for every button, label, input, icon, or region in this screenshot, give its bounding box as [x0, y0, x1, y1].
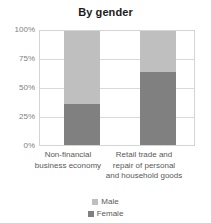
chart-title: By gender — [0, 6, 211, 18]
bar-segment-male[interactable] — [64, 31, 100, 106]
x-axis-category-label-line: Retail trade and — [101, 150, 187, 161]
x-axis-category-label-line: repair of personal — [101, 161, 187, 172]
legend-item[interactable]: Female — [0, 208, 211, 220]
chart-legend: MaleFemale — [0, 196, 211, 220]
x-axis-category-label: Non-financialbusiness economy — [25, 150, 111, 171]
x-axis-category-label: Retail trade andrepair of personaland ho… — [101, 150, 187, 182]
bar-segment-female[interactable] — [140, 72, 176, 145]
x-axis-category-label-line: and household goods — [101, 171, 187, 182]
x-axis-category-label-line: business economy — [25, 161, 111, 172]
plot-area — [39, 30, 195, 146]
bar-segment-male[interactable] — [140, 31, 176, 74]
y-axis-tick-label: 25% — [0, 113, 35, 121]
legend-item[interactable]: Male — [0, 196, 211, 208]
y-axis-labels: 100%75%50%25%0% — [0, 30, 35, 146]
y-axis-tick-label: 100% — [0, 26, 35, 34]
x-axis-labels: Non-financialbusiness economyRetail trad… — [39, 150, 195, 194]
chart-container: By gender 100%75%50%25%0% Non-financialb… — [0, 0, 211, 223]
x-axis-category-label-line: Non-financial — [25, 150, 111, 161]
y-axis-tick-label: 75% — [0, 55, 35, 63]
bar-stack[interactable] — [140, 31, 176, 145]
bar-segment-female[interactable] — [64, 104, 100, 145]
legend-label: Male — [101, 198, 118, 206]
y-axis-tick-label: 0% — [0, 142, 35, 150]
bar-stack[interactable] — [64, 31, 100, 145]
legend-swatch-icon — [88, 211, 94, 217]
legend-swatch-icon — [92, 199, 98, 205]
legend-label: Female — [97, 210, 124, 218]
y-axis-tick-label: 50% — [0, 84, 35, 92]
